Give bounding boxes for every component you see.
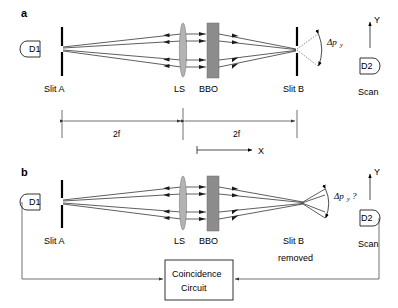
detector-d1-panel-a: D1 (20, 41, 41, 57)
lens-ls-panel-a (179, 23, 186, 77)
slit-b-label-panel-a: Slit B (283, 84, 304, 94)
ls-label-panel-a: LS (174, 84, 185, 94)
detector-d1-label-a: D1 (29, 44, 41, 54)
momentum-spread-subscript-panel-a: y (339, 41, 343, 48)
momentum-spread-label-panel-b: Δp (333, 191, 344, 201)
detector-d2-label-b: D2 (361, 213, 373, 223)
crystal-bbo-panel-a (207, 23, 219, 78)
axis-y-label-panel-b: Y (374, 167, 380, 177)
panel-a-label: a (21, 7, 28, 19)
detector-d2-label-a: D2 (361, 61, 373, 71)
scan-label-panel-a: Scan (358, 87, 379, 97)
momentum-spread-subscript-panel-b: y (346, 195, 350, 202)
slit-b-removed-label-line2: removed (278, 253, 313, 263)
coincidence-circuit-box (165, 260, 233, 300)
dimension-label-left-panel-a: 2f (113, 129, 121, 139)
panel-b-label: b (21, 166, 28, 178)
coincidence-circuit-label-line1: Coincidence (172, 269, 222, 279)
bbo-label-panel-a: BBO (199, 84, 218, 94)
detector-d1-label-b: D1 (29, 197, 41, 207)
scan-label-panel-b: Scan (358, 239, 379, 249)
detector-d2-panel-b: D2 (360, 210, 380, 226)
detector-d1-panel-b: D1 (20, 194, 41, 210)
figure-root: a D1 Slit A LS (0, 0, 398, 308)
dimension-label-right-panel-a: 2f (233, 129, 241, 139)
coincidence-circuit-label-line2: Circuit (181, 283, 207, 293)
slit-a-label-panel-b: Slit A (44, 236, 65, 246)
momentum-spread-question-panel-b: ? (352, 191, 357, 201)
optics-diagram: a D1 Slit A LS (0, 0, 398, 308)
slit-b-removed-label-line1: Slit B (283, 236, 304, 246)
ls-label-panel-b: LS (174, 236, 185, 246)
momentum-spread-label-panel-a: Δp (326, 37, 337, 47)
axis-y-label-panel-a: Y (374, 15, 380, 25)
bbo-label-panel-b: BBO (199, 236, 218, 246)
crystal-bbo-panel-b (207, 176, 219, 231)
detector-d2-panel-a: D2 (360, 58, 380, 74)
lens-ls-panel-b (179, 176, 186, 230)
slit-a-label-panel-a: Slit A (44, 84, 65, 94)
axis-x-label: X (258, 146, 264, 156)
